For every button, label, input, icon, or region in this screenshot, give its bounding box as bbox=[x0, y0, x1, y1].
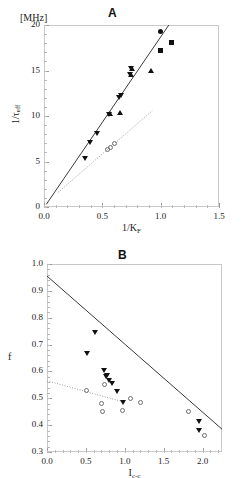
data-point-tri-down bbox=[196, 428, 202, 433]
x-tick-minor bbox=[125, 450, 126, 453]
data-point-circle-open bbox=[112, 141, 117, 146]
y-tick-minor bbox=[47, 425, 50, 426]
y-tick-minor bbox=[47, 355, 50, 356]
y-tick-minor bbox=[44, 134, 47, 135]
x-tick-minor bbox=[164, 450, 165, 453]
x-tick-minor bbox=[148, 450, 149, 453]
y-tick-minor bbox=[44, 116, 47, 117]
y-tick-minor bbox=[47, 361, 50, 362]
x-tick-label: 2.0 bbox=[189, 456, 217, 466]
data-point-circle-open bbox=[84, 388, 89, 393]
x-tick-minor bbox=[91, 205, 92, 208]
y-tick-minor bbox=[44, 125, 47, 126]
x-tick-minor bbox=[137, 205, 138, 208]
data-point-tri-down bbox=[196, 419, 202, 424]
x-tick-label: 1.0 bbox=[111, 456, 139, 466]
y-tick-minor bbox=[44, 198, 47, 199]
x-tick-minor bbox=[156, 450, 157, 453]
data-point-tri-down bbox=[82, 156, 88, 161]
fit-line-solid bbox=[47, 276, 222, 429]
y-tick-minor bbox=[47, 398, 50, 399]
y-tick-minor bbox=[47, 291, 50, 292]
y-tick-minor bbox=[47, 388, 50, 389]
y-tick-label: 0 bbox=[10, 201, 40, 211]
y-tick-minor bbox=[44, 171, 47, 172]
y-tick-label: 0.4 bbox=[13, 419, 43, 429]
y-tick-minor bbox=[47, 436, 50, 437]
y-tick-label: 0.3 bbox=[13, 446, 43, 456]
x-tick-minor bbox=[86, 450, 87, 453]
y-tick-minor bbox=[44, 152, 47, 153]
x-tick-minor bbox=[187, 450, 188, 453]
y-tick-label: 1.0 bbox=[13, 258, 43, 268]
x-tick-minor bbox=[78, 450, 79, 453]
data-point-tri-down bbox=[94, 131, 100, 136]
data-point-tri-up bbox=[148, 68, 154, 73]
x-tick-minor bbox=[126, 205, 127, 208]
y-tick-minor bbox=[47, 296, 50, 297]
data-point-tri-up bbox=[128, 72, 134, 77]
y-tick-minor bbox=[47, 382, 50, 383]
y-tick-minor bbox=[44, 34, 47, 35]
y-tick-minor bbox=[44, 71, 47, 72]
y-tick-minor bbox=[47, 431, 50, 432]
x-tick-label: 0.0 bbox=[30, 211, 58, 221]
panel-a: A [MHz] 1/τeff 1/KF 051015200.00.51.01.5 bbox=[0, 0, 241, 240]
data-point-tri-up bbox=[129, 66, 135, 71]
y-tick-label: 0.5 bbox=[13, 392, 43, 402]
y-tick-label: 5 bbox=[10, 156, 40, 166]
x-tick-minor bbox=[140, 450, 141, 453]
y-tick-minor bbox=[47, 318, 50, 319]
data-point-tri-down bbox=[101, 368, 107, 373]
y-tick-minor bbox=[47, 409, 50, 410]
x-tick-minor bbox=[117, 450, 118, 453]
x-tick-minor bbox=[94, 450, 95, 453]
y-tick-minor bbox=[44, 61, 47, 62]
x-tick-label: 0.5 bbox=[72, 456, 100, 466]
y-tick-minor bbox=[47, 280, 50, 281]
x-tick-minor bbox=[133, 450, 134, 453]
y-tick-minor bbox=[47, 312, 50, 313]
y-tick-minor bbox=[47, 377, 50, 378]
x-tick-label: 0.0 bbox=[33, 456, 61, 466]
data-point-tri-down bbox=[87, 140, 93, 145]
y-tick-minor bbox=[47, 285, 50, 286]
data-point-tri-up bbox=[107, 111, 113, 116]
y-tick-label: 15 bbox=[10, 65, 40, 75]
y-tick-minor bbox=[44, 89, 47, 90]
x-tick-minor bbox=[102, 205, 103, 208]
x-tick-minor bbox=[179, 450, 180, 453]
x-tick-major bbox=[219, 203, 220, 208]
y-tick-minor bbox=[47, 393, 50, 394]
x-tick-label: 1.5 bbox=[150, 456, 178, 466]
y-tick-minor bbox=[47, 366, 50, 367]
x-tick-minor bbox=[47, 450, 48, 453]
x-tick-minor bbox=[101, 450, 102, 453]
y-tick-minor bbox=[47, 339, 50, 340]
data-point-tri-down bbox=[92, 330, 98, 335]
y-tick-minor bbox=[47, 350, 50, 351]
y-tick-minor bbox=[44, 80, 47, 81]
y-tick-minor bbox=[47, 404, 50, 405]
x-tick-minor bbox=[56, 205, 57, 208]
x-tick-minor bbox=[44, 205, 45, 208]
x-tick-minor bbox=[172, 205, 173, 208]
y-tick-minor bbox=[47, 334, 50, 335]
x-tick-minor bbox=[149, 205, 150, 208]
y-tick-minor bbox=[44, 143, 47, 144]
y-tick-minor bbox=[47, 307, 50, 308]
x-tick-minor bbox=[79, 205, 80, 208]
y-tick-minor bbox=[47, 275, 50, 276]
x-tick-minor bbox=[195, 450, 196, 453]
panel-b-data-layer bbox=[0, 240, 241, 478]
x-tick-label: 1.0 bbox=[147, 211, 175, 221]
x-tick-minor bbox=[184, 205, 185, 208]
x-tick-minor bbox=[161, 205, 162, 208]
y-tick-label: 10 bbox=[10, 110, 40, 120]
y-tick-label: 20 bbox=[10, 19, 40, 29]
y-tick-minor bbox=[47, 441, 50, 442]
y-tick-minor bbox=[44, 107, 47, 108]
data-point-tri-down bbox=[118, 93, 124, 98]
y-tick-minor bbox=[44, 52, 47, 53]
x-tick-minor bbox=[109, 450, 110, 453]
